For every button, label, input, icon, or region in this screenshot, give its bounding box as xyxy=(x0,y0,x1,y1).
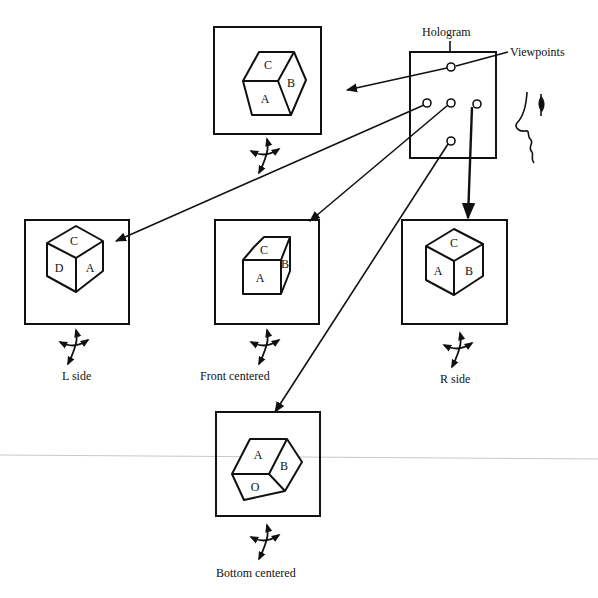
svg-text:C: C xyxy=(264,58,272,72)
svg-text:A: A xyxy=(261,92,270,106)
view-top: C B A xyxy=(214,27,321,173)
caption-l-side: L side xyxy=(62,369,91,383)
view-r-side: C A B R side xyxy=(402,220,507,386)
viewpoint-bottom xyxy=(447,137,455,145)
viewpoints-leader xyxy=(456,52,508,66)
svg-text:A: A xyxy=(434,264,443,278)
arrow-to-r-side xyxy=(468,107,472,218)
svg-text:A: A xyxy=(254,448,263,462)
arrow-to-front-centered xyxy=(310,105,448,221)
caption-bottom-centered: Bottom centered xyxy=(216,566,296,580)
svg-text:B: B xyxy=(280,459,288,473)
cube-top-view xyxy=(243,52,306,115)
viewpoints-label: Viewpoints xyxy=(510,45,565,59)
viewpoint-left xyxy=(423,99,431,107)
view-l-side: C D A L side xyxy=(25,220,129,383)
svg-text:B: B xyxy=(287,76,295,90)
svg-text:O: O xyxy=(251,480,260,494)
rotation-icon xyxy=(251,139,279,173)
rotation-icon xyxy=(251,330,279,364)
arrow-to-bottom-centered xyxy=(275,144,448,412)
rotation-icon xyxy=(60,330,88,364)
hologram-plate: Hologram Viewpoints xyxy=(410,25,565,158)
rotation-icon xyxy=(444,333,472,367)
arrow-to-top-view xyxy=(347,68,447,90)
svg-text:C: C xyxy=(70,234,78,248)
svg-text:A: A xyxy=(256,271,265,285)
hologram-viewpoints-diagram: Hologram Viewpoints C B A xyxy=(0,0,598,598)
rotation-icon xyxy=(251,525,279,559)
viewpoint-arrows xyxy=(116,68,472,412)
view-front-centered: C A B Front centered xyxy=(200,220,319,383)
viewer-face-icon xyxy=(516,92,544,163)
caption-r-side: R side xyxy=(440,372,470,386)
svg-text:D: D xyxy=(55,261,64,275)
svg-text:C: C xyxy=(450,236,458,250)
viewpoint-top xyxy=(447,63,455,71)
viewpoint-right xyxy=(473,100,481,108)
svg-text:C: C xyxy=(260,243,268,257)
view-bottom-centered: A B O Bottom centered xyxy=(216,412,320,580)
svg-text:B: B xyxy=(465,264,473,278)
hologram-label: Hologram xyxy=(422,25,471,39)
svg-text:B: B xyxy=(281,257,289,271)
svg-text:A: A xyxy=(86,261,95,275)
caption-front-centered: Front centered xyxy=(200,369,270,383)
